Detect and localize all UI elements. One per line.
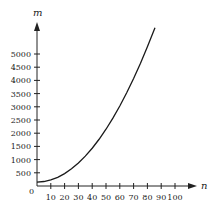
y-tick-label: 500 (16, 169, 31, 178)
x-tick-label: 80 (142, 193, 152, 202)
y-tick-label: 1500 (11, 142, 31, 151)
y-tick-label: 4500 (11, 63, 31, 72)
data-curve (37, 28, 155, 182)
x-tick-label: 60 (115, 193, 125, 202)
x-tick-label: 50 (101, 193, 111, 202)
x-tick-label: 10 (46, 193, 56, 202)
y-tick-label: 2500 (11, 116, 31, 125)
y-axis-label: m (33, 7, 42, 18)
y-tick-label: 3500 (11, 90, 31, 99)
y-tick-label: 4000 (11, 76, 31, 85)
y-tick-label: 3000 (11, 103, 31, 112)
origin-label: 0 (29, 187, 34, 196)
chart: 500100015002000250030003500400045005000 … (0, 0, 214, 215)
x-tick-label: 40 (87, 193, 97, 202)
y-tick-label: 1000 (11, 156, 31, 165)
x-tick-label: 70 (129, 193, 139, 202)
x-axis-label: n (201, 180, 207, 191)
x-axis-arrow-icon (188, 183, 197, 189)
x-tick-label: 20 (60, 193, 70, 202)
y-axis-arrow-icon (34, 22, 40, 31)
y-tick-label: 5000 (11, 50, 31, 59)
x-tick-label: 100 (167, 193, 182, 202)
x-tick-label: 30 (73, 193, 83, 202)
y-axis-ticks: 500100015002000250030003500400045005000 (11, 50, 40, 178)
x-tick-label: 90 (156, 193, 166, 202)
y-tick-label: 2000 (11, 129, 31, 138)
